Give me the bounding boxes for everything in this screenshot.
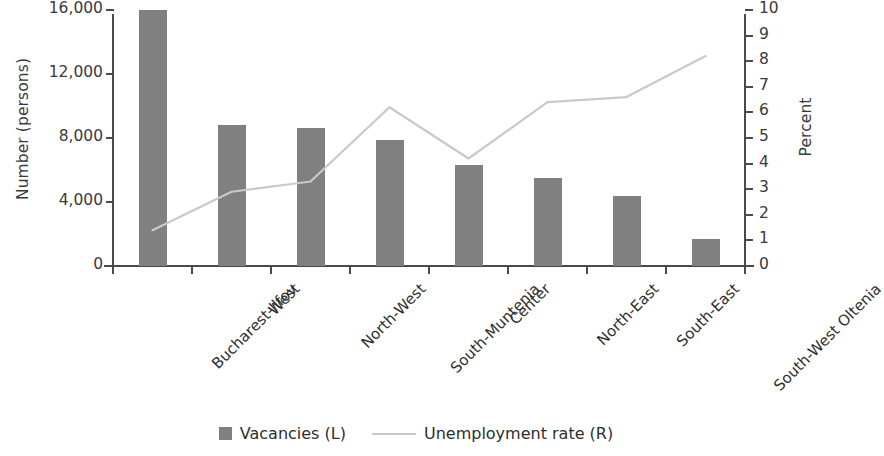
- y-tick-mark-right: [745, 265, 753, 267]
- y-tick-mark-right: [745, 9, 753, 11]
- y-tick-label-left: 0: [23, 257, 103, 273]
- x-tick-mark: [349, 266, 351, 274]
- y-tick-label-right: 2: [759, 206, 799, 222]
- square-swatch-icon: [219, 427, 232, 440]
- y-tick-mark-right: [745, 60, 753, 62]
- x-tick-mark: [428, 266, 430, 274]
- y-tick-label-left: 8,000: [23, 129, 103, 145]
- y-tick-mark-right: [745, 239, 753, 241]
- plot-area: [113, 10, 745, 266]
- y-tick-label-right: 9: [759, 27, 799, 43]
- y-tick-label-right: 10: [759, 1, 799, 17]
- legend-item-unemployment-rate: Unemployment rate (R): [372, 424, 613, 443]
- line-swatch-icon: [372, 433, 416, 435]
- x-category-label-south-east: South-East: [672, 280, 742, 350]
- y-tick-label-left: 4,000: [23, 193, 103, 209]
- y-tick-label-right: 5: [759, 129, 799, 145]
- x-tick-mark: [586, 266, 588, 274]
- x-tick-mark: [112, 266, 114, 274]
- y-tick-mark-right: [745, 111, 753, 113]
- y-tick-mark-right: [745, 86, 753, 88]
- y-tick-label-right: 0: [759, 257, 799, 273]
- y-tick-label-right: 8: [759, 52, 799, 68]
- x-category-label-north-west: North-West: [357, 280, 429, 352]
- x-tick-mark: [507, 266, 509, 274]
- x-tick-mark: [270, 266, 272, 274]
- y-tick-label-right: 7: [759, 78, 799, 94]
- y-axis-right-title: Percent: [797, 67, 815, 187]
- y-tick-mark-right: [745, 35, 753, 37]
- legend-label-unemployment-rate: Unemployment rate (R): [424, 424, 613, 443]
- x-category-label-south-west-oltenia: South-West Oltenia: [770, 280, 884, 395]
- legend-item-vacancies: Vacancies (L): [219, 424, 346, 443]
- legend-label-vacancies: Vacancies (L): [240, 424, 346, 443]
- y-tick-label-right: 3: [759, 180, 799, 196]
- x-tick-mark: [744, 266, 746, 274]
- y-tick-label-left: 12,000: [23, 65, 103, 81]
- x-tick-mark: [191, 266, 193, 274]
- y-tick-label-left: 16,000: [23, 1, 103, 17]
- x-category-label-north-east: North-East: [593, 280, 662, 349]
- y-tick-mark-right: [745, 214, 753, 216]
- y-tick-mark-right: [745, 188, 753, 190]
- unemployment-rate-line: [153, 56, 706, 230]
- y-tick-label-right: 4: [759, 155, 799, 171]
- y-tick-mark-right: [745, 163, 753, 165]
- chart-legend: Vacancies (L) Unemployment rate (R): [0, 424, 832, 443]
- y-tick-label-right: 1: [759, 231, 799, 247]
- y-tick-mark-right: [745, 137, 753, 139]
- line-series: [113, 10, 745, 266]
- y-tick-label-right: 6: [759, 103, 799, 119]
- x-tick-mark: [665, 266, 667, 274]
